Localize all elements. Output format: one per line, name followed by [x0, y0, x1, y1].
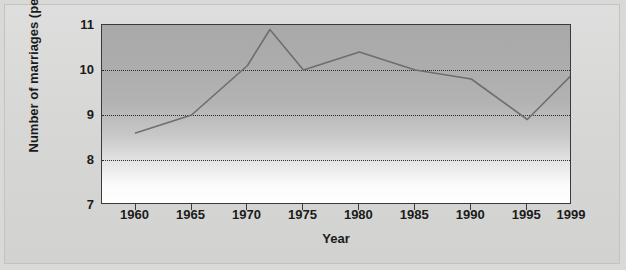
x-tickmark-1965	[191, 204, 192, 210]
x-tick-1970: 1970	[216, 208, 276, 222]
x-tick-1980: 1980	[328, 208, 388, 222]
x-tickmark-1975	[302, 204, 303, 210]
x-tickmark-1985	[414, 204, 415, 210]
y-tick-8: 8	[68, 153, 94, 166]
x-tick-1999: 1999	[541, 208, 601, 222]
x-tickmark-1990	[470, 204, 471, 210]
x-tick-1975: 1975	[272, 208, 332, 222]
x-tick-1965: 1965	[161, 208, 221, 222]
x-axis-title: Year	[101, 231, 571, 246]
y-tick-7: 7	[68, 198, 94, 211]
x-tick-1985: 1985	[384, 208, 444, 222]
series-line-marriages	[102, 25, 571, 204]
y-tick-10: 10	[68, 63, 94, 76]
x-tickmark-1970	[246, 204, 247, 210]
chart-figure: Number of marriages (per 1,000) 7891011 …	[0, 0, 626, 270]
x-tick-1960: 1960	[105, 208, 165, 222]
x-tickmark-1980	[358, 204, 359, 210]
y-tick-11: 11	[68, 18, 94, 31]
x-tick-1990: 1990	[440, 208, 500, 222]
plot-area	[101, 24, 571, 204]
x-tickmark-1995	[526, 204, 527, 210]
y-axis-title: Number of marriages (per 1,000)	[26, 0, 41, 153]
x-tickmark-1960	[135, 204, 136, 210]
y-tick-9: 9	[68, 108, 94, 121]
